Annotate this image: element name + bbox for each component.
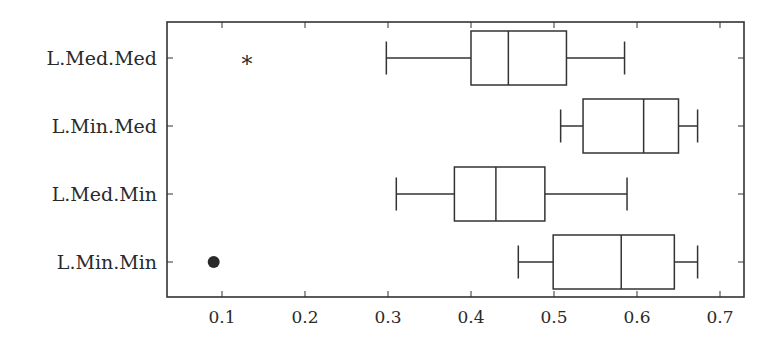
category-label: L.Med.Min xyxy=(52,183,157,205)
x-tick-label: 0.1 xyxy=(208,307,235,327)
iqr-box xyxy=(454,167,544,221)
category-label: L.Min.Med xyxy=(52,115,157,137)
x-tick-label: 0.7 xyxy=(706,307,733,327)
iqr-box xyxy=(471,31,566,85)
category-label: L.Med.Med xyxy=(47,47,157,69)
x-tick-label: 0.3 xyxy=(374,307,401,327)
box-l-min-med xyxy=(561,99,698,153)
y-axis: L.Med.MedL.Min.MedL.Med.MinL.Min.Min xyxy=(47,47,744,273)
x-tick-label: 0.6 xyxy=(623,307,650,327)
x-tick-label: 0.5 xyxy=(540,307,567,327)
category-label: L.Min.Min xyxy=(57,251,157,273)
boxplot-chart: 0.10.20.30.40.50.60.7 L.Med.MedL.Min.Med… xyxy=(0,0,780,341)
outlier-dot-icon xyxy=(208,256,220,268)
box-l-med-min xyxy=(396,167,627,221)
iqr-box xyxy=(553,235,674,289)
x-tick-label: 0.4 xyxy=(457,307,484,327)
box-l-min-min xyxy=(208,235,698,289)
boxes: ∗ xyxy=(208,31,698,289)
box-l-med-med: ∗ xyxy=(239,31,624,85)
x-tick-label: 0.2 xyxy=(291,307,318,327)
outlier-star-icon: ∗ xyxy=(239,47,254,72)
iqr-box xyxy=(583,99,678,153)
